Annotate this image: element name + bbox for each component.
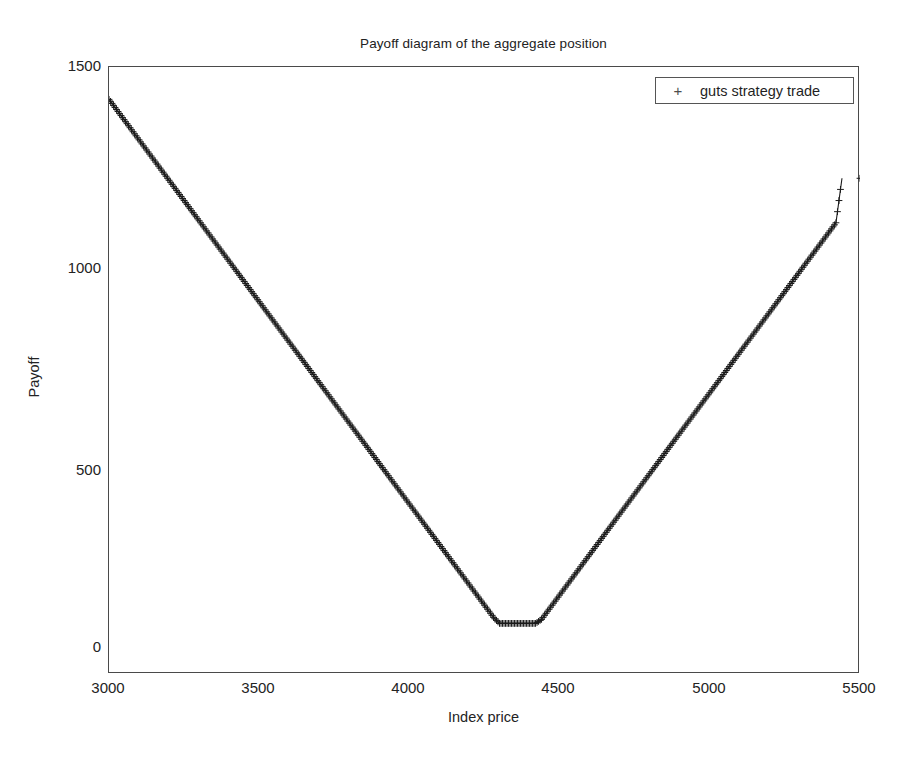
y-tick-label-1500: 1500 [68,57,101,74]
x-tick-label-5500: 5500 [814,679,904,696]
chart-title: Payoff diagram of the aggregate position [108,36,859,51]
y-axis-tick-labels: 1500 1000 500 0 [0,0,101,760]
x-tick-label-3000: 3000 [63,679,153,696]
legend-marker-plus-icon: + [656,83,700,99]
x-axis-title: Index price [108,709,859,725]
x-tick-label-4000: 4000 [363,679,453,696]
data-series-guts-strategy-trade [109,67,860,674]
x-tick-label-5000: 5000 [664,679,754,696]
series-markers [109,96,860,627]
legend-label: guts strategy trade [700,83,820,99]
plot-area [108,66,859,673]
y-tick-label-1000: 1000 [68,259,101,276]
legend[interactable]: + guts strategy trade [655,77,854,104]
x-tick-label-3500: 3500 [213,679,303,696]
x-tick-label-4500: 4500 [513,679,603,696]
y-tick-label-0: 0 [93,638,101,655]
figure-canvas: Payoff diagram of the aggregate position… [0,0,911,760]
y-tick-label-500: 500 [76,461,101,478]
